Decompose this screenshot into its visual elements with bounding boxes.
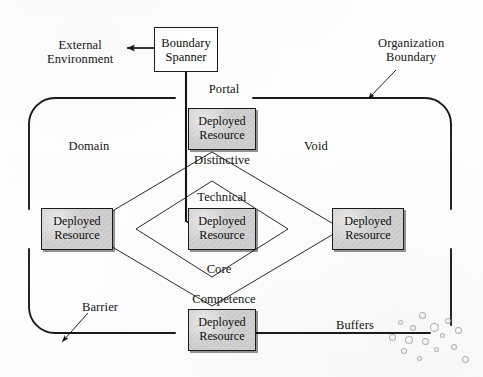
buffer-bubble bbox=[410, 325, 416, 331]
organization-boundary-label: Organization Boundary bbox=[378, 36, 444, 64]
buffer-bubble bbox=[417, 356, 422, 361]
buffer-bubble bbox=[389, 334, 396, 341]
buffer-bubble bbox=[419, 312, 426, 319]
portal-label: Portal bbox=[209, 82, 239, 96]
external-environment-label: External Environment bbox=[47, 38, 113, 66]
barrier-leader bbox=[62, 313, 88, 342]
buffer-bubble bbox=[445, 318, 451, 324]
buffer-bubble bbox=[451, 344, 457, 350]
figure-canvas: External Environment Organization Bounda… bbox=[0, 0, 483, 377]
competence-label: Competence bbox=[192, 292, 255, 306]
deployed-resource-center[interactable]: Deployed Resource bbox=[188, 208, 256, 250]
organization-boundary-leader bbox=[368, 70, 396, 99]
deployed-resource-top[interactable]: Deployed Resource bbox=[188, 108, 256, 150]
buffers-label: Buffers bbox=[336, 318, 374, 332]
boundary-spanner-box[interactable]: Boundary Spanner bbox=[154, 27, 218, 72]
buffer-bubble bbox=[440, 333, 445, 338]
buffer-bubble bbox=[434, 347, 439, 352]
buffer-bubble bbox=[422, 338, 429, 345]
domain-label: Domain bbox=[69, 139, 110, 153]
buffer-bubble bbox=[455, 327, 462, 334]
distinctive-label: Distinctive bbox=[194, 153, 250, 167]
void-label: Void bbox=[304, 139, 328, 153]
buffer-bubble bbox=[398, 320, 403, 325]
buffer-bubble bbox=[405, 336, 413, 344]
barrier-label: Barrier bbox=[82, 300, 118, 314]
core-label: Core bbox=[207, 262, 232, 276]
buffer-bubble bbox=[430, 323, 439, 332]
deployed-resource-left[interactable]: Deployed Resource bbox=[41, 208, 113, 250]
deployed-resource-right[interactable]: Deployed Resource bbox=[332, 208, 404, 250]
deployed-resource-bottom[interactable]: Deployed Resource bbox=[188, 309, 256, 351]
technical-label: Technical bbox=[197, 190, 246, 204]
buffer-bubble bbox=[401, 348, 407, 354]
buffer-bubble bbox=[462, 356, 469, 363]
